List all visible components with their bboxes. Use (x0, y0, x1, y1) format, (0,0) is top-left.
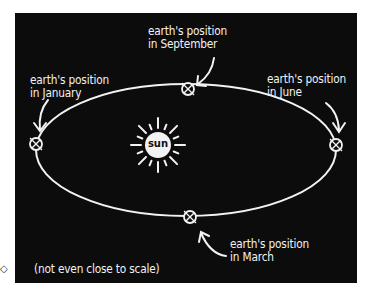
earth-icon-june (330, 139, 342, 151)
earth-icon-january (30, 138, 42, 150)
sun-ray (165, 125, 167, 130)
sun-ray (174, 152, 179, 154)
sun-ray (139, 157, 146, 164)
label-september: earth's position in September (148, 25, 227, 51)
sun-ray (170, 157, 177, 164)
arrow-march (199, 232, 226, 256)
label-march-line2: in March (230, 251, 309, 264)
label-january-line2: in January (30, 87, 109, 100)
arrow-september (197, 58, 214, 86)
label-march: earth's position in March (230, 238, 309, 264)
sun-ray (138, 152, 143, 154)
sun-label: sun (147, 138, 169, 149)
sun-ray (138, 137, 143, 139)
label-june-line2: in June (267, 86, 346, 99)
earth-icon-march (184, 211, 196, 223)
orbit-path (36, 84, 336, 216)
footnote: (not even close to scale) (34, 263, 160, 276)
sun-ray (139, 126, 146, 133)
corner-mark: ◇ (0, 263, 8, 274)
label-june: earth's position in June (267, 73, 346, 99)
sun-ray (165, 161, 167, 166)
arrow-june (326, 103, 345, 132)
sun-ray (150, 161, 152, 166)
label-january: earth's position in January (30, 74, 109, 100)
sun-ray (170, 126, 177, 133)
sun-ray (150, 125, 152, 130)
earth-icon-september (182, 83, 194, 95)
label-september-line2: in September (148, 38, 227, 51)
sun-ray (174, 137, 179, 139)
orbit-diagram: sun earth's position in September earth'… (0, 0, 370, 295)
